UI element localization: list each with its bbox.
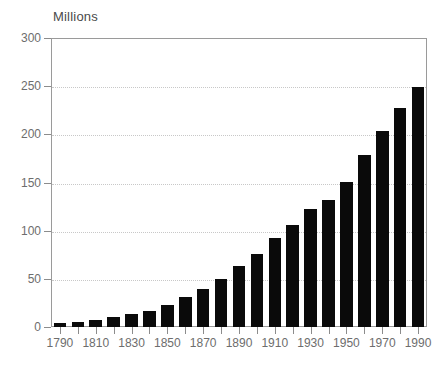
x-tick-mark-1940 — [329, 327, 330, 334]
x-tick-label-1930: 1930 — [297, 336, 324, 350]
y-tick-label-100: 100 — [21, 224, 41, 238]
x-tick-mark-1810 — [96, 327, 97, 334]
y-tick-mark-100 — [44, 231, 51, 232]
x-tick-label-1990: 1990 — [405, 336, 432, 350]
x-axis-labels: 1790181018301850187018901910193019501970… — [51, 336, 427, 356]
x-tick-mark-1910 — [275, 327, 276, 334]
bar — [107, 317, 120, 327]
x-tick-label-1970: 1970 — [369, 336, 396, 350]
x-tick-label-1870: 1870 — [190, 336, 217, 350]
y-tick-mark-200 — [44, 134, 51, 135]
x-tick-mark-1990 — [418, 327, 419, 334]
x-tick-label-1850: 1850 — [154, 336, 181, 350]
x-tick-label-1830: 1830 — [118, 336, 145, 350]
bar — [215, 279, 228, 327]
x-tick-mark-1880 — [221, 327, 222, 334]
y-tick-label-200: 200 — [21, 127, 41, 141]
bar — [251, 254, 264, 327]
bar — [89, 320, 102, 327]
y-tick-mark-50 — [44, 279, 51, 280]
x-tick-mark-1980 — [400, 327, 401, 334]
x-tick-mark-1960 — [364, 327, 365, 334]
bar-chart: Millions 050100150200250300 179018101830… — [0, 0, 445, 372]
x-tick-mark-1800 — [78, 327, 79, 334]
bar — [376, 131, 389, 327]
y-tick-mark-0 — [44, 327, 51, 328]
x-tick-mark-1860 — [185, 327, 186, 334]
y-tick-mark-150 — [44, 183, 51, 184]
bars-container — [51, 38, 427, 327]
x-tick-label-1950: 1950 — [333, 336, 360, 350]
x-tick-mark-1820 — [114, 327, 115, 334]
bar — [304, 209, 317, 327]
x-tick-label-1810: 1810 — [82, 336, 109, 350]
y-axis-title: Millions — [53, 9, 98, 24]
bar — [143, 311, 156, 327]
bar — [358, 155, 371, 327]
bar — [340, 182, 353, 327]
bar — [233, 266, 246, 327]
bar — [286, 225, 299, 327]
x-tick-mark-1830 — [132, 327, 133, 334]
x-tick-mark-1900 — [257, 327, 258, 334]
y-axis-labels: 050100150200250300 — [0, 38, 41, 327]
x-tick-mark-1930 — [311, 327, 312, 334]
y-tick-label-150: 150 — [21, 176, 41, 190]
x-axis-ticks — [51, 327, 427, 334]
x-tick-label-1910: 1910 — [261, 336, 288, 350]
y-tick-mark-300 — [44, 38, 51, 39]
bar — [161, 305, 174, 327]
x-tick-mark-1950 — [346, 327, 347, 334]
x-tick-mark-1840 — [149, 327, 150, 334]
bar — [322, 200, 335, 327]
y-tick-mark-250 — [44, 86, 51, 87]
bar — [269, 238, 282, 327]
x-tick-label-1890: 1890 — [226, 336, 253, 350]
y-tick-label-0: 0 — [34, 320, 41, 334]
x-tick-mark-1870 — [203, 327, 204, 334]
x-tick-mark-1850 — [167, 327, 168, 334]
x-tick-mark-1890 — [239, 327, 240, 334]
x-tick-mark-1970 — [382, 327, 383, 334]
bar — [394, 108, 407, 327]
x-tick-mark-1920 — [293, 327, 294, 334]
x-tick-label-1790: 1790 — [47, 336, 74, 350]
y-tick-label-50: 50 — [28, 272, 41, 286]
bar — [412, 87, 425, 327]
bar — [197, 289, 210, 327]
y-tick-label-300: 300 — [21, 31, 41, 45]
x-tick-mark-1790 — [60, 327, 61, 334]
bar — [125, 314, 138, 327]
bar — [179, 297, 192, 327]
y-tick-label-250: 250 — [21, 79, 41, 93]
